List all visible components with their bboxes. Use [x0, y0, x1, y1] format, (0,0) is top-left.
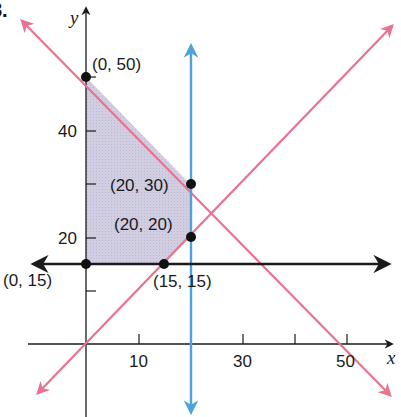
line-x-plus-y-equals-50 — [22, 21, 390, 395]
figure-number: 8. — [0, 0, 8, 21]
point-20-20 — [186, 232, 196, 242]
feasible-region — [86, 77, 190, 264]
label-point-20-30: (20, 30) — [110, 176, 169, 195]
y-tick-label-20: 20 — [58, 229, 77, 248]
x-axis-label: x — [386, 347, 396, 368]
label-point-15-15: (15, 15) — [153, 272, 212, 291]
y-tick-label-40: 40 — [58, 122, 77, 141]
x-tick-label-10: 10 — [129, 352, 148, 371]
label-point-20-20: (20, 20) — [114, 215, 173, 234]
x-ticks — [139, 334, 347, 344]
point-15-15 — [159, 259, 169, 269]
label-point-0-50: (0, 50) — [92, 55, 141, 74]
x-tick-label-50: 50 — [336, 352, 355, 371]
point-0-15 — [81, 259, 91, 269]
linear-programming-graph: (0, 50) (20, 30) (20, 20) (15, 15) (0, 1… — [0, 0, 401, 417]
x-tick-label-30: 30 — [233, 352, 252, 371]
y-axis-label: y — [68, 7, 79, 28]
point-0-50 — [81, 72, 91, 82]
point-20-30 — [186, 179, 196, 189]
label-point-0-15: (0, 15) — [3, 271, 52, 290]
